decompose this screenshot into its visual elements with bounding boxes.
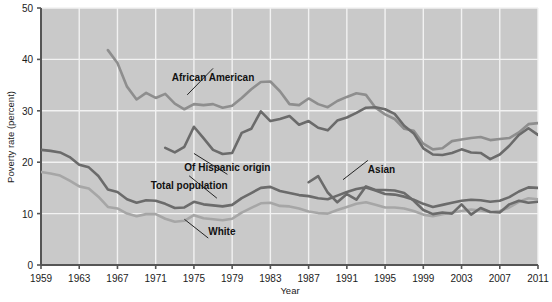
- y-axis-tick-labels: 01020304050: [22, 3, 34, 271]
- x-tick-label: 1995: [374, 273, 397, 284]
- x-tick-label: 1983: [259, 273, 282, 284]
- chart-svg: 01020304050 1959196319671971197519791983…: [0, 0, 552, 302]
- x-tick-label: 1959: [30, 273, 53, 284]
- y-tick-label: 0: [27, 260, 33, 271]
- x-tick-label: 1991: [336, 273, 359, 284]
- x-tick-label: 1971: [145, 273, 168, 284]
- x-tick-label: 2011: [527, 273, 549, 284]
- y-tick-label: 10: [22, 209, 34, 220]
- y-axis-title: Poverty rate (percent): [5, 91, 16, 183]
- x-tick-label: 2003: [450, 273, 473, 284]
- x-tick-label: 1979: [221, 273, 244, 284]
- x-tick-label: 1987: [297, 273, 320, 284]
- y-tick-label: 20: [22, 157, 34, 168]
- x-tick-label: 1963: [68, 273, 91, 284]
- plot-area-background: [41, 8, 538, 265]
- series-label-of-hispanic-origin: Of Hispanic origin: [184, 162, 270, 173]
- x-axis-title: Year: [280, 285, 299, 296]
- series-label-white: White: [208, 226, 236, 237]
- y-tick-label: 30: [22, 106, 34, 117]
- y-tick-label: 50: [22, 3, 34, 14]
- x-tick-label: 1967: [106, 273, 129, 284]
- poverty-rate-chart-figure: 01020304050 1959196319671971197519791983…: [0, 0, 552, 302]
- series-label-african-american: African American: [172, 72, 254, 83]
- x-tick-label: 1999: [412, 273, 435, 284]
- series-label-asian: Asian: [368, 164, 395, 175]
- y-tick-label: 40: [22, 54, 34, 65]
- x-axis-tick-labels: 1959196319671971197519791983198719911995…: [30, 273, 549, 284]
- x-tick-label: 2007: [489, 273, 512, 284]
- series-label-total-population: Total population: [151, 180, 228, 191]
- x-tick-label: 1975: [183, 273, 206, 284]
